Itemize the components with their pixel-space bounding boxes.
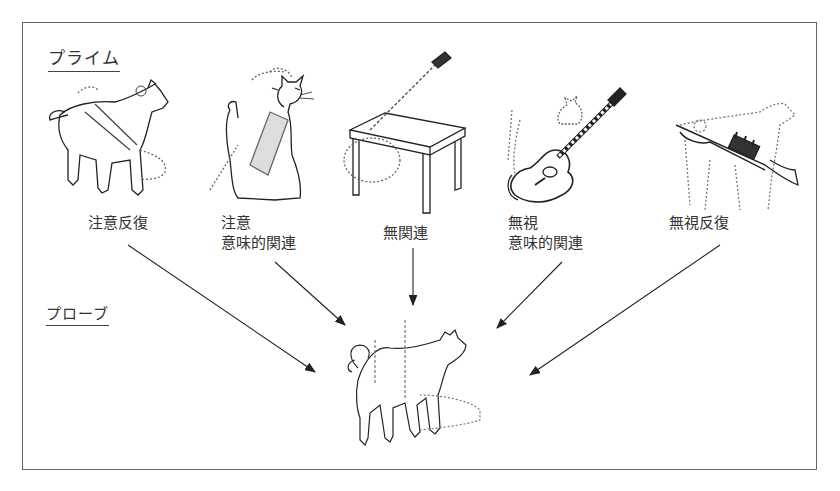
arrow-ignored-semantic — [497, 262, 562, 328]
arrow-ignored-repetition — [530, 245, 720, 375]
guitar-icon — [508, 88, 626, 202]
arrow-attended-semantic — [275, 262, 345, 325]
arrow-attended-repetition — [128, 245, 315, 372]
dog-icon — [50, 80, 168, 195]
diagram-artwork — [0, 0, 840, 491]
table-icon — [344, 52, 465, 213]
cat-icon — [210, 68, 314, 200]
trumpet-icon — [676, 103, 798, 210]
arrows — [128, 245, 720, 375]
probe-dog-icon — [348, 320, 480, 445]
